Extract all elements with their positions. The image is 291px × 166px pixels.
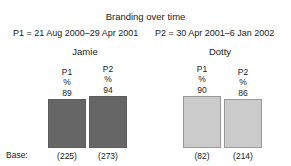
bar-column-dotty-p2: P2 % 86 (214) xyxy=(224,99,262,148)
bar-value-label: 90 xyxy=(183,85,221,95)
bar-period-label: P1 xyxy=(183,64,221,74)
bar-label-dotty-p2: P2 % 86 xyxy=(224,67,262,99)
bar-value-label: 89 xyxy=(48,88,86,98)
bar-column-jamie-p1: P1 % 89 (225) xyxy=(48,99,86,148)
bar-column-dotty-p1: P1 % 90 (82) xyxy=(183,96,221,148)
bar-column-jamie-p2: P2 % 94 (273) xyxy=(89,96,127,148)
chart-title: Branding over time xyxy=(0,12,291,22)
base-value-dotty-p2: (214) xyxy=(224,148,262,161)
bar-value-label: 86 xyxy=(224,88,262,98)
bar-period-label: P2 xyxy=(224,67,262,77)
bar-dotty-p2 xyxy=(224,99,262,148)
bar-jamie-p1 xyxy=(48,99,86,148)
bar-label-dotty-p1: P1 % 90 xyxy=(183,64,221,96)
group-title-dotty: Dotty xyxy=(180,47,260,57)
base-row-label: Base: xyxy=(6,151,28,160)
bar-label-jamie-p1: P1 % 89 xyxy=(48,67,86,99)
bar-jamie-p2 xyxy=(89,96,127,148)
period-2-definition: P2 = 30 Apr 2001–6 Jan 2002 xyxy=(155,29,274,38)
base-value-dotty-p1: (82) xyxy=(183,148,221,161)
bar-unit-label: % xyxy=(89,74,127,84)
base-value-jamie-p2: (273) xyxy=(89,148,127,161)
bar-unit-label: % xyxy=(224,77,262,87)
branding-over-time-chart: Branding over time P1 = 21 Aug 2000–29 A… xyxy=(0,0,291,166)
bar-label-jamie-p2: P2 % 94 xyxy=(89,64,127,96)
bar-period-label: P1 xyxy=(48,67,86,77)
group-title-jamie: Jamie xyxy=(45,47,125,57)
base-value-jamie-p1: (225) xyxy=(48,148,86,161)
bar-unit-label: % xyxy=(183,74,221,84)
bar-dotty-p1 xyxy=(183,96,221,148)
period-1-definition: P1 = 21 Aug 2000–29 Apr 2001 xyxy=(13,29,138,38)
bar-unit-label: % xyxy=(48,77,86,87)
bar-value-label: 94 xyxy=(89,85,127,95)
bar-period-label: P2 xyxy=(89,64,127,74)
